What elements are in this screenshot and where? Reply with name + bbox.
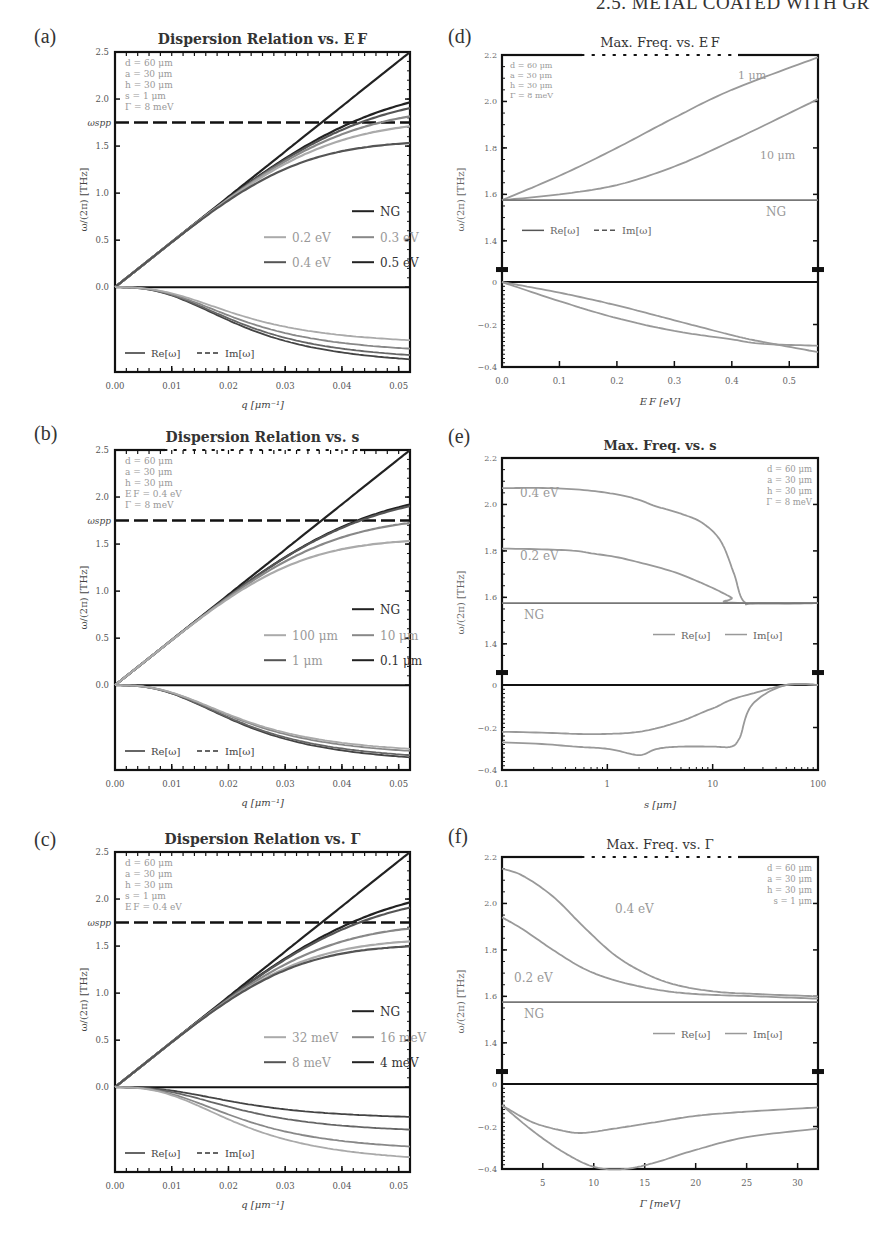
y-tick-label: 0 xyxy=(492,278,497,287)
y-tick-label: 2.0 xyxy=(484,97,497,106)
y-axis-label: ω/(2π) [THz] xyxy=(78,566,89,630)
parameter-text: d = 60 μm xyxy=(510,61,553,70)
legend-re-label: Re[ω] xyxy=(550,225,580,236)
parameter-text: h = 30 μm xyxy=(125,478,173,488)
annotation: 0.4 eV xyxy=(615,902,654,916)
x-tick-label: 0.5 xyxy=(783,376,797,386)
legend-label: NG xyxy=(380,603,400,617)
x-tick-label: 0.01 xyxy=(162,1181,181,1191)
y-tick-label: 1.0 xyxy=(95,188,109,198)
x-tick-label: 15 xyxy=(639,1178,650,1188)
re-curve xyxy=(115,946,410,1087)
chart-title: Dispersion Relation vs. E F xyxy=(158,31,367,47)
legend-label: 0.4 eV xyxy=(292,256,331,270)
y-axis-label: ω/(2π) [THz] xyxy=(455,570,466,634)
annotation: NG xyxy=(524,1007,544,1021)
x-tick-label: 0.0 xyxy=(495,376,509,386)
annotation: 0.2 eV xyxy=(514,971,553,985)
parameter-text: d = 60 μm xyxy=(125,858,173,868)
y-tick-label: 1.4 xyxy=(484,640,497,649)
y-tick-label: −0.4 xyxy=(478,1165,497,1174)
y-tick-label: 0.5 xyxy=(95,633,109,643)
parameter-text: h = 30 μm xyxy=(767,486,812,496)
re-curve xyxy=(115,928,410,1087)
re-curve xyxy=(115,102,410,287)
axis-break-marker xyxy=(496,1069,508,1074)
im-curve xyxy=(115,287,410,349)
legend-label: 16 meV xyxy=(380,1031,427,1045)
chart-maxfreq-vs-gamma: Max. Freq. vs. Γ1.41.61.82.02.20−0.2−0.4… xyxy=(424,802,848,1247)
legend-label: 4 meV xyxy=(380,1056,419,1070)
y-tick-label: 2.2 xyxy=(484,51,497,60)
annotation: 10 μm xyxy=(760,149,796,162)
legend-im-label: Im[ω] xyxy=(225,746,254,757)
y-tick-label: 2.0 xyxy=(95,894,109,904)
y-tick-label: 1.8 xyxy=(484,547,497,556)
y-tick-label: 0.0 xyxy=(95,680,109,690)
parameter-text: s = 1 μm xyxy=(773,896,812,906)
im-curve xyxy=(115,685,410,751)
omega-spp-label: ωspp xyxy=(88,918,112,928)
parameter-text: Γ = 8 meV xyxy=(766,497,813,507)
y-tick-label: −0.2 xyxy=(478,724,497,733)
y-tick-label: 0 xyxy=(492,1080,497,1089)
x-tick-label: 0.04 xyxy=(332,1181,351,1191)
omega-spp-label: ωspp xyxy=(88,118,112,128)
x-tick-label: 0.02 xyxy=(219,1181,238,1191)
chart-title: Max. Freq. vs. E F xyxy=(600,35,720,50)
re-curve xyxy=(115,902,410,1087)
x-tick-label: 30 xyxy=(792,1178,803,1188)
y-tick-label: 2.0 xyxy=(484,500,497,509)
parameter-text: E F = 0.4 eV xyxy=(125,489,182,499)
x-tick-label: 0.02 xyxy=(219,779,238,789)
legend-label: 0.5 eV xyxy=(380,256,419,270)
y-tick-label: 1.8 xyxy=(484,946,497,955)
lower-curve xyxy=(502,1105,818,1133)
legend-label: 8 meV xyxy=(292,1056,331,1070)
x-tick-label: 0.01 xyxy=(162,381,181,391)
legend-im-label: Im[ω] xyxy=(225,348,254,359)
legend-label: 1 μm xyxy=(292,654,323,668)
parameter-text: d = 60 μm xyxy=(125,58,173,68)
legend-re-label: Re[ω] xyxy=(151,746,181,757)
annotation: 0.4 eV xyxy=(520,486,559,500)
y-tick-label: 0.0 xyxy=(95,1082,109,1092)
legend-label: NG xyxy=(380,1005,400,1019)
parameter-text: Γ = 8 meV xyxy=(510,91,553,100)
legend-im-label: Im[ω] xyxy=(225,1148,254,1159)
parameter-text: d = 60 μm xyxy=(767,863,812,873)
x-tick-label: 0.00 xyxy=(106,381,125,391)
chart-title: Max. Freq. vs. s xyxy=(603,438,716,453)
x-tick-label: 0.4 xyxy=(725,376,739,386)
y-tick-label: −0.2 xyxy=(478,1123,497,1132)
x-tick-label: 0.02 xyxy=(219,381,238,391)
x-tick-label: 0.05 xyxy=(389,381,408,391)
y-tick-label: 1.0 xyxy=(95,586,109,596)
legend-label: 32 meV xyxy=(292,1031,339,1045)
parameter-text: h = 30 μm xyxy=(125,80,173,90)
legend-label: 0.1 μm xyxy=(380,654,423,668)
axis-break-marker xyxy=(496,670,508,675)
parameter-text: Γ = 8 meV xyxy=(125,102,174,112)
x-axis-label: q [μm⁻¹] xyxy=(241,1199,284,1210)
annotation: 1 μm xyxy=(738,69,767,82)
y-tick-label: 0.0 xyxy=(95,282,109,292)
x-tick-label: 10 xyxy=(588,1178,599,1188)
x-tick-label: 0.05 xyxy=(389,1181,408,1191)
y-axis-label: ω/(2π) [THz] xyxy=(78,168,89,232)
x-tick-label: 0.3 xyxy=(668,376,682,386)
lower-curve xyxy=(502,1105,818,1169)
x-tick-label: 0.2 xyxy=(610,376,624,386)
y-tick-label: 0.5 xyxy=(95,1035,109,1045)
x-tick-label: 10 xyxy=(707,779,718,789)
x-tick-label: 0.03 xyxy=(276,779,295,789)
legend-re-label: Re[ω] xyxy=(681,1029,711,1040)
y-tick-label: 2.5 xyxy=(95,445,109,455)
axis-break-marker xyxy=(812,1069,824,1074)
y-tick-label: 2.2 xyxy=(484,454,497,463)
chart-title: Dispersion Relation vs. s xyxy=(166,429,360,445)
y-tick-label: 2.0 xyxy=(95,94,109,104)
chart-title: Dispersion Relation vs. Γ xyxy=(165,831,361,847)
legend-im-label: Im[ω] xyxy=(753,1029,782,1040)
axis-break-marker xyxy=(496,267,508,272)
